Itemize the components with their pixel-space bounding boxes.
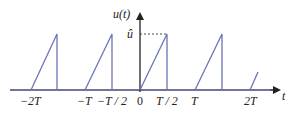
ramp-period-2T-partial [250,72,258,90]
ramp-period-minus-T [85,34,112,90]
tick-label-2T: 2T [244,94,258,108]
signal-diagram: u(t) û t −2T −T −T / 2 0 T / 2 T 2T [0,0,295,114]
peak-label: û [127,27,133,41]
tick-label-T-half: T / 2 [156,94,178,108]
ramp-period-T [195,34,222,90]
tick-label-minus-2T: −2T [20,94,42,108]
tick-label-T: T [191,94,199,108]
y-axis-label: u(t) [113,7,130,21]
x-axis-label: t [282,89,286,103]
signal-waveform [31,34,258,90]
tick-label-zero: 0 [137,94,143,108]
ramp-period-minus-2T [31,34,57,90]
ramp-period-0 [140,34,167,90]
tick-label-minus-T: −T [77,94,93,108]
tick-label-minus-T-half: −T / 2 [97,94,127,108]
